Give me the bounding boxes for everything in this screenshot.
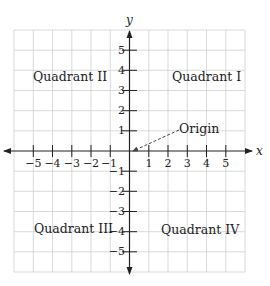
x-tick-label: 2	[165, 157, 172, 170]
y-tick-label: 3	[118, 84, 125, 97]
x-tick-labels: −5 −4 −3 −2 −1 1 2 3 4 5	[25, 157, 229, 170]
coordinate-plane-svg: −5 −4 −3 −2 −1 1 2 3 4 5 5 4 3 2 1 −1 −2…	[0, 0, 270, 286]
y-tick-label: 5	[118, 44, 125, 57]
y-tick-label: −5	[109, 245, 125, 258]
y-tick-label: −1	[109, 165, 125, 178]
coordinate-plane-figure: −5 −4 −3 −2 −1 1 2 3 4 5 5 4 3 2 1 −1 −2…	[0, 0, 270, 286]
x-tick-label: 4	[203, 157, 210, 170]
y-axis-label: y	[125, 13, 133, 27]
x-tick-label: 5	[222, 157, 229, 170]
y-tick-label: 4	[118, 64, 125, 77]
x-tick-label: −2	[83, 157, 99, 170]
x-tick-label: 3	[184, 157, 191, 170]
y-tick-label: 1	[118, 124, 125, 137]
x-tick-label: 1	[146, 157, 153, 170]
y-tick-label: 2	[118, 104, 125, 117]
quadrant-ii-label: Quadrant II	[33, 69, 107, 84]
x-tick-label: −3	[64, 157, 80, 170]
quadrant-iii-label: Quadrant III	[34, 221, 113, 236]
y-tick-label: −3	[109, 205, 125, 218]
origin-label: Origin	[179, 121, 219, 136]
x-tick-label: −5	[25, 157, 41, 170]
quadrant-i-label: Quadrant I	[172, 69, 241, 84]
x-axis-label: x	[256, 144, 263, 158]
x-tick-label: −4	[44, 157, 60, 170]
quadrant-iv-label: Quadrant IV	[161, 222, 240, 237]
y-tick-label: −2	[109, 185, 125, 198]
origin-leader-arrow	[133, 130, 179, 151]
